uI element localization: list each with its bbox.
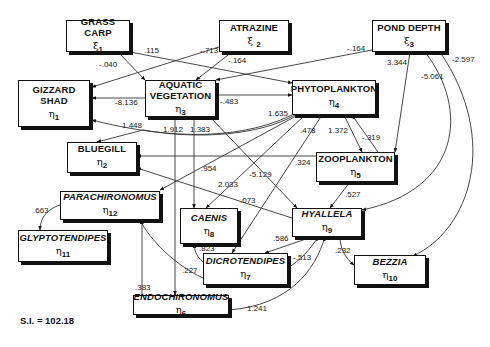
edge-label: -5.129 — [249, 170, 272, 179]
fit-index: S.I. = 102.18 — [20, 315, 74, 326]
node-pond-depth: POND DEPTH ξ3 — [372, 20, 446, 52]
edge-label: .663 — [33, 206, 49, 215]
node-aquatic-vegetation: AQUATIC VEGETATION η3 — [145, 80, 216, 117]
node-zooplankton: ZOOPLANKTON η5 — [316, 152, 395, 182]
path-arrows — [0, 0, 490, 347]
node-symbol: η7 — [240, 268, 250, 282]
node-parachironomus: PARACHIRONOMUS η12 — [60, 191, 160, 220]
edge-label: -5.061 — [421, 72, 444, 81]
node-bluegill: BLUEGILL η2 — [67, 142, 137, 173]
node-label: POND DEPTH — [377, 23, 440, 34]
edge-label: 1.372 — [328, 126, 348, 135]
edge-label: .073 — [240, 196, 256, 205]
edge-label: .823 — [199, 244, 215, 253]
node-caenis: CAENIS η8 — [180, 208, 238, 244]
node-label: ATRAZINE — [230, 23, 278, 34]
node-symbol: η6 — [176, 304, 186, 318]
edge-label: .954 — [201, 164, 217, 173]
edge-label: 1.241 — [247, 304, 267, 313]
node-symbol: ξ1 — [93, 40, 103, 54]
node-symbol: η12 — [103, 204, 118, 218]
edge-label: .586 — [273, 234, 289, 243]
node-label: HYALLELA — [302, 209, 353, 220]
node-symbol: ξ3 — [404, 35, 414, 49]
node-symbol: ξ 2 — [247, 35, 260, 49]
edge-label: 1.448 — [122, 121, 142, 130]
edge-label: -2.597 — [452, 55, 475, 64]
node-glyptotendipes: GLYPTOTENDIPES η11 — [18, 230, 108, 262]
edge-label: .232 — [335, 246, 351, 255]
node-symbol: η10 — [383, 269, 398, 283]
edge-label: .324 — [295, 158, 311, 167]
node-label: BLUEGILL — [78, 144, 126, 155]
node-gizzard-shad: GIZZARD SHAD η1 — [18, 80, 90, 127]
node-label: DICROTENDIPES — [206, 256, 285, 267]
edge-label: -.040 — [99, 60, 117, 69]
edge-label: -.513 — [293, 253, 311, 262]
edge-label: -8.136 — [115, 98, 138, 107]
node-symbol: η1 — [49, 108, 59, 122]
edge-label: 3.344 — [387, 58, 407, 67]
node-symbol: η2 — [97, 156, 107, 170]
edge-label: -.319 — [362, 133, 380, 142]
node-symbol: η4 — [329, 96, 339, 110]
edge-label: .383 — [135, 283, 151, 292]
node-hyallela: HYALLELA η9 — [292, 208, 362, 237]
node-symbol: η11 — [56, 245, 70, 259]
edge-label: 1.635 — [268, 109, 288, 118]
edge-label: -.164 — [347, 44, 365, 53]
node-label: PHYTOPLANKTON — [291, 84, 377, 95]
node-label: PARACHIRONOMUS — [63, 192, 157, 203]
edge-label: .478 — [300, 126, 316, 135]
node-label: GLYPTOTENDIPES — [19, 233, 106, 244]
node-phytoplankton: PHYTOPLANKTON η4 — [292, 80, 376, 115]
node-bezzia: BEZZIA η10 — [354, 255, 426, 285]
edge-label: -.164 — [228, 56, 246, 65]
edge-label: 1.383 — [190, 125, 210, 134]
node-symbol: η8 — [204, 225, 214, 239]
node-grass-carp: GRASS CARP ξ1 — [66, 20, 130, 52]
node-label: BEZZIA — [373, 257, 408, 268]
edge-label: .527 — [345, 190, 361, 199]
node-dicrotendipes: DICROTENDIPES η7 — [203, 253, 288, 285]
node-label: ZOOPLANKTON — [318, 154, 392, 165]
node-symbol: η3 — [175, 103, 185, 117]
edge-label: 1.912 — [163, 125, 183, 134]
edge-label: .115 — [144, 46, 159, 55]
node-label: GRASS CARP — [67, 17, 129, 39]
edge-label: .227 — [182, 266, 198, 275]
edge-label: 2.033 — [218, 180, 238, 189]
node-symbol: η5 — [350, 166, 360, 180]
node-label: CAENIS — [191, 213, 228, 224]
node-endochironomus: ENDOCHIRONOMUS η6 — [133, 295, 229, 315]
node-label-line2: VEGETATION — [150, 91, 211, 102]
node-label: ENDOCHIRONOMUS — [134, 292, 229, 303]
node-atrazine: ATRAZINE ξ 2 — [219, 20, 289, 52]
node-label-line2: SHAD — [40, 96, 67, 107]
node-symbol: η9 — [322, 221, 332, 235]
edge-label: -.483 — [220, 97, 238, 106]
path-diagram: GRASS CARP ξ1 ATRAZINE ξ 2 POND DEPTH ξ3… — [0, 0, 490, 347]
edge-label: -.713 — [200, 46, 218, 55]
